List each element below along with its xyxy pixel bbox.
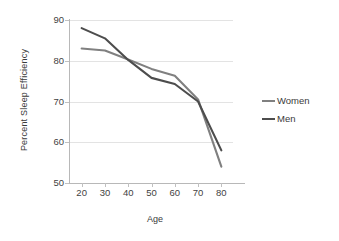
plot-area	[70, 20, 233, 183]
y-axis-tick-label: 50	[40, 178, 64, 188]
x-axis-tick-label: 50	[140, 188, 164, 198]
legend-item-men[interactable]: Men	[262, 110, 310, 128]
y-axis-tick	[65, 102, 69, 103]
y-axis-tick-label: 70	[40, 97, 64, 107]
y-axis-tick	[65, 61, 69, 62]
legend-label: Women	[277, 96, 310, 106]
y-axis-tick	[65, 20, 69, 21]
y-axis-title: Percent Sleep Efficiency	[19, 30, 29, 170]
y-axis-tick	[65, 183, 69, 184]
x-axis-title: Age	[105, 214, 205, 224]
series-lines	[70, 20, 233, 183]
chart-legend: WomenMen	[262, 92, 310, 128]
legend-label: Men	[277, 114, 295, 124]
x-axis-tick-label: 80	[209, 188, 233, 198]
y-axis-tick-label: 60	[40, 137, 64, 147]
legend-item-women[interactable]: Women	[262, 92, 310, 110]
x-axis-line	[69, 183, 245, 184]
y-axis-tick-label: 80	[40, 56, 64, 66]
x-axis-tick-label: 60	[163, 188, 187, 198]
sleep-efficiency-line-chart: Percent Sleep Efficiency 5060708090 2030…	[0, 0, 339, 241]
y-axis-tick-label: 90	[40, 15, 64, 25]
x-axis-tick-label: 70	[186, 188, 210, 198]
x-axis-tick-label: 30	[93, 188, 117, 198]
y-axis-tick	[65, 142, 69, 143]
legend-swatch-icon	[262, 100, 275, 103]
legend-swatch-icon	[262, 118, 275, 121]
y-axis-tick-labels: 5060708090	[38, 0, 64, 241]
series-line-men	[82, 28, 222, 150]
x-axis-tick-label: 40	[116, 188, 140, 198]
x-axis-tick-label: 20	[70, 188, 94, 198]
